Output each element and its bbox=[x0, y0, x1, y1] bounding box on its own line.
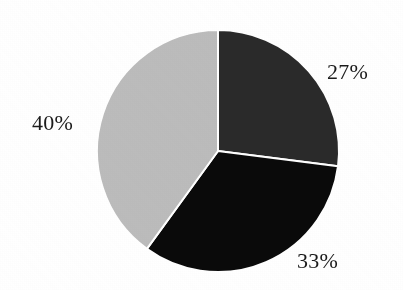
pie-chart-figure: 27% 33% 40% bbox=[0, 0, 403, 290]
pie-slice-label-27: 27% bbox=[327, 61, 368, 83]
pie-slice-label-33: 33% bbox=[297, 250, 338, 272]
pie-chart-graphic bbox=[0, 0, 403, 290]
pie-slice-group bbox=[97, 30, 339, 272]
pie-slice-label-40: 40% bbox=[32, 112, 73, 134]
